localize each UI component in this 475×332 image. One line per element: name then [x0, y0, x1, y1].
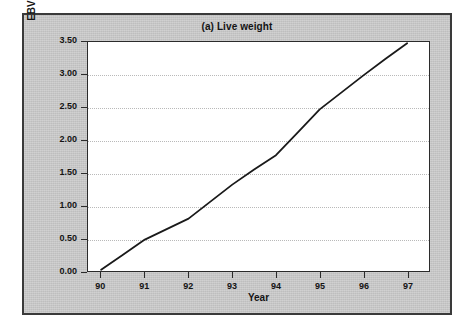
x-axis-tick [276, 272, 277, 278]
y-axis-tick-label: 3.50 [39, 35, 77, 45]
plot-area [87, 41, 430, 272]
x-axis-tick-label: 93 [217, 281, 247, 291]
y-axis-tick-label: 2.00 [39, 134, 77, 144]
y-axis-tick [81, 272, 87, 273]
x-axis-title: Year [87, 292, 430, 303]
x-axis-tick [144, 272, 145, 278]
y-axis-tick-label: 3.00 [39, 68, 77, 78]
figure-container: (a) Live weight EBV for live weight (kg)… [0, 0, 475, 332]
x-axis-tick [100, 272, 101, 278]
x-axis-tick [320, 272, 321, 278]
y-axis-tick-label: 0.00 [39, 266, 77, 276]
chart-title: (a) Live weight [24, 21, 450, 32]
y-axis-tick-label: 1.00 [39, 200, 77, 210]
y-axis-tick-label: 2.50 [39, 101, 77, 111]
x-axis-tick-label: 90 [85, 281, 115, 291]
x-axis-tick-label: 92 [173, 281, 203, 291]
y-axis-tick-label: 0.50 [39, 233, 77, 243]
series-line-ebv-live-weight [101, 43, 407, 269]
x-axis-tick-label: 91 [129, 281, 159, 291]
x-axis-tick-label: 97 [393, 281, 423, 291]
x-axis-tick-label: 96 [349, 281, 379, 291]
y-axis-tick-label: 1.50 [39, 167, 77, 177]
y-axis-title: EBV for live weight (kg) [26, 0, 40, 60]
x-axis-tick-label: 94 [261, 281, 291, 291]
x-axis-tick [364, 272, 365, 278]
x-axis-tick-label: 95 [305, 281, 335, 291]
x-axis-tick [188, 272, 189, 278]
x-axis-tick [408, 272, 409, 278]
series-line-chart [88, 42, 429, 271]
x-axis-tick [232, 272, 233, 278]
